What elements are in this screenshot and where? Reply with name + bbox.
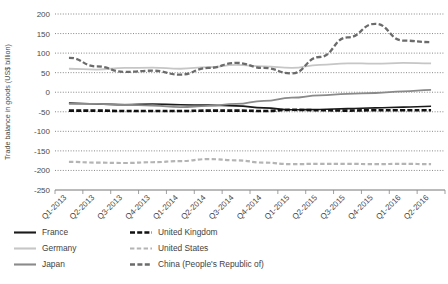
- y-tick-label: 0: [46, 88, 51, 97]
- legend-label-text: United States: [158, 243, 208, 253]
- y-tick-label: 100: [37, 49, 51, 58]
- legend-label-text: France: [42, 227, 68, 237]
- x-tick-label: Q3-2014: [207, 193, 236, 222]
- x-tick-label: Q2-2013: [68, 193, 97, 222]
- y-axis-tick-labels: 200150100500-50-100-150-200-250: [34, 10, 51, 195]
- chart-legend: FranceUnited KingdomGermanyUnited States…: [14, 224, 434, 272]
- x-tick-label: Q1-2015: [263, 193, 292, 222]
- legend-item-united-states[interactable]: United States: [130, 240, 434, 256]
- legend-swatch-icon: [130, 244, 152, 253]
- y-tick-label: -150: [34, 147, 51, 156]
- legend-label-text: China (People's Republic of): [158, 259, 264, 269]
- x-tick-label: Q4-2013: [124, 193, 153, 222]
- y-tick-label: 200: [37, 10, 51, 19]
- legend-item-united-kingdom[interactable]: United Kingdom: [130, 224, 434, 240]
- legend-label-text: Germany: [42, 243, 76, 253]
- x-tick-label: Q1-2014: [151, 193, 180, 222]
- x-tick-label: Q4-2014: [235, 193, 264, 222]
- x-tick-label: Q3-2013: [96, 193, 125, 222]
- legend-label-text: United Kingdom: [158, 227, 218, 237]
- series-line: [69, 159, 431, 164]
- legend-swatch-icon: [14, 228, 36, 237]
- y-tick-label: -200: [34, 166, 51, 175]
- x-tick-label: Q2-2014: [179, 193, 208, 222]
- y-axis-title-text: Trade balance in goods (US$ billion): [3, 44, 12, 160]
- x-tick-label: Q3-2015: [319, 193, 348, 222]
- legend-item-china[interactable]: China (People's Republic of): [130, 256, 434, 272]
- x-tick-label: Q2-2015: [291, 193, 320, 222]
- y-tick-label: 150: [37, 30, 51, 39]
- legend-item-japan[interactable]: Japan: [14, 256, 130, 272]
- y-tick-label: -100: [34, 127, 51, 136]
- legend-swatch-icon: [130, 228, 152, 237]
- x-axis: [55, 190, 445, 194]
- x-tick-label: Q4-2015: [346, 193, 375, 222]
- legend-item-germany[interactable]: Germany: [14, 240, 130, 256]
- legend-label-text: Japan: [42, 259, 65, 269]
- y-tick-label: -250: [34, 186, 51, 195]
- series-line: [69, 110, 431, 111]
- y-tick-label: -50: [38, 108, 50, 117]
- legend-swatch-icon: [130, 260, 152, 269]
- y-axis-title: Trade balance in goods (US$ billion): [3, 44, 12, 160]
- legend-swatch-icon: [14, 260, 36, 269]
- y-tick-label: 50: [41, 69, 50, 78]
- legend-item-france[interactable]: France: [14, 224, 130, 240]
- data-series: [69, 24, 431, 164]
- trade-balance-chart: Trade balance in goods (US$ billion) 200…: [0, 0, 448, 284]
- x-axis-tick-labels: Q1-2013Q2-2013Q3-2013Q4-2013Q1-2014Q2-20…: [40, 193, 431, 222]
- x-tick-label: Q1-2016: [374, 193, 403, 222]
- series-line: [69, 24, 431, 75]
- x-tick-label: Q1-2013: [40, 193, 69, 222]
- legend-swatch-icon: [14, 244, 36, 253]
- x-tick-label: Q2-2016: [402, 193, 431, 222]
